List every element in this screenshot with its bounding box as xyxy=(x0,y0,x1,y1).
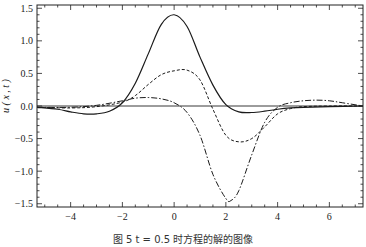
x-tick-label: 4 xyxy=(275,211,280,222)
line-chart: −4−20246 1.51.00.50.0−0.5−1.0−1.5 x u ( … xyxy=(0,0,366,225)
x-axis-label: x xyxy=(203,223,209,225)
x-tick-label: −4 xyxy=(65,211,76,222)
y-tick-label: 0.0 xyxy=(21,101,34,112)
y-tick-label: 1.0 xyxy=(21,35,34,46)
x-tick-label: 2 xyxy=(223,211,228,222)
x-tick-label: 0 xyxy=(172,211,177,222)
y-tick-label: −1.0 xyxy=(15,166,33,177)
y-tick-label: −0.5 xyxy=(15,133,33,144)
x-tick-labels: −4−20246 xyxy=(65,211,332,222)
y-tick-labels: 1.51.00.50.0−0.5−1.0−1.5 xyxy=(15,3,33,209)
series-solid-line xyxy=(37,15,363,114)
y-tick-label: −1.5 xyxy=(15,198,33,209)
y-tick-label: 0.5 xyxy=(21,68,34,79)
y-axis-label: u ( x , t ) xyxy=(0,78,12,113)
figure-caption: 图 5 t = 0.5 时方程的解的图像 xyxy=(0,231,366,246)
series-dash-dot-line xyxy=(37,98,363,202)
series-layer xyxy=(37,15,363,202)
x-tick-label: −2 xyxy=(117,211,128,222)
x-tick-label: 6 xyxy=(327,211,332,222)
y-tick-label: 1.5 xyxy=(21,3,34,14)
